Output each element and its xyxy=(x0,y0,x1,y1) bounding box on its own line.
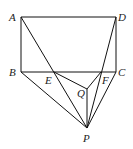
label-C: C xyxy=(118,66,126,78)
label-P: P xyxy=(82,132,90,144)
label-B: B xyxy=(9,66,16,78)
point-labels: A D B C E F Q P xyxy=(8,11,126,144)
label-A: A xyxy=(8,11,16,23)
label-Q: Q xyxy=(77,87,85,99)
label-E: E xyxy=(44,74,52,86)
geometry-figure: A D B C E F Q P xyxy=(0,0,133,149)
label-F: F xyxy=(101,74,109,86)
label-D: D xyxy=(117,11,126,23)
segment-BP xyxy=(21,72,87,128)
segments xyxy=(21,17,116,128)
